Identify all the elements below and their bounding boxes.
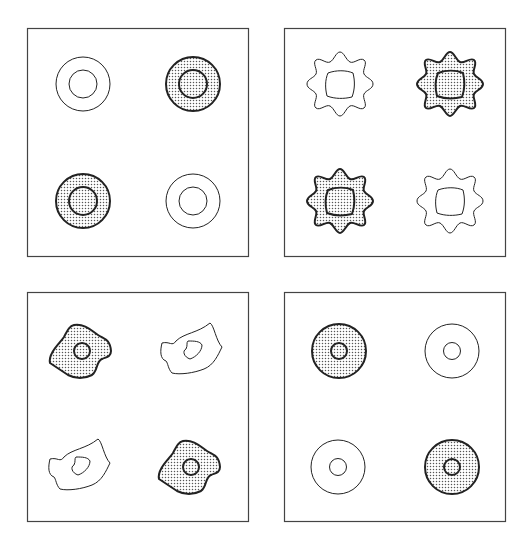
blob-outline [49,439,110,490]
blob-outline [161,323,222,374]
ring-stippled [425,440,479,494]
figure-canvas [0,0,530,546]
gear-outline [307,52,373,116]
gear-stippled [417,52,483,116]
panel-bottom-right [285,293,506,522]
panel-frame [28,293,249,522]
blob-stippled [50,325,111,378]
panel-top-right [285,29,506,257]
ring-outline [56,57,110,111]
blob-stippled [159,441,220,494]
gear-outline [417,169,483,233]
panel-frame [28,29,249,257]
ring-outline [166,174,220,228]
panel-top-left [28,29,249,257]
ring-outline [425,324,479,378]
ring-outline [311,440,365,494]
panel-frame [285,293,506,522]
ring-stippled [312,324,366,378]
panel-bottom-left [28,293,249,522]
gear-stippled [307,169,373,233]
ring-stippled [166,57,220,111]
ring-stippled [56,174,110,228]
